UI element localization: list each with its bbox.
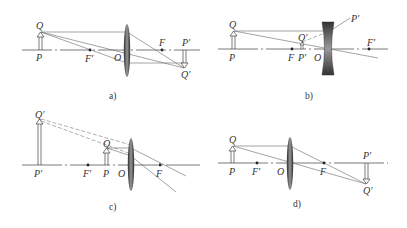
- virtual-image-arrow: [300, 42, 304, 49]
- convex-lens: [128, 138, 134, 191]
- label-O: O: [114, 52, 121, 63]
- caption-a: a): [109, 91, 116, 102]
- object-arrow: [103, 148, 110, 165]
- label-P-image: P′: [33, 168, 43, 179]
- label-F: F: [287, 52, 295, 63]
- panel-c: Q′ P′ F′ P Q O F c): [22, 109, 200, 213]
- label-F: F: [319, 166, 327, 177]
- ray-through-center: [233, 146, 366, 184]
- focal-point-back: [161, 49, 164, 52]
- label-Q: Q: [229, 134, 237, 145]
- label-P-image: P′: [297, 52, 307, 63]
- concave-lens: [322, 22, 334, 75]
- image-arrow: [363, 163, 370, 184]
- label-Q: Q: [229, 19, 237, 30]
- panel-a: Q P F′ O F P′ Q′ a): [22, 20, 200, 102]
- caption-c: c): [109, 202, 116, 213]
- label-O: O: [277, 166, 284, 177]
- label-Q-image: Q′: [363, 185, 373, 196]
- label-P: P: [102, 168, 109, 179]
- caption-d: d): [293, 199, 301, 210]
- label-Q-image: Q′: [35, 109, 45, 120]
- label-P-image: P′: [181, 37, 191, 48]
- label-Q-image: Q′: [298, 32, 308, 43]
- label-Q: Q: [103, 138, 111, 149]
- focal-point-back: [159, 164, 162, 167]
- label-F-prime: F′: [366, 37, 376, 48]
- ray-through-focus: [290, 146, 366, 184]
- label-F-prime: F′: [82, 168, 92, 179]
- ray-through-center-in: [107, 148, 131, 156]
- ray-through-center-out: [131, 156, 176, 192]
- focal-point-back: [368, 48, 371, 51]
- label-P: P: [35, 52, 42, 63]
- panel-b: Q P F P′ Q′ O F′ P′ b): [218, 13, 388, 102]
- focal-point-back: [323, 162, 326, 165]
- convex-lens: [124, 24, 130, 77]
- virtual-image-arrow: [36, 119, 43, 165]
- label-P-image: P′: [362, 150, 372, 161]
- caption-b: b): [305, 91, 313, 102]
- label-F: F: [155, 168, 163, 179]
- focal-point-front: [256, 162, 259, 165]
- focal-point-front: [291, 48, 294, 51]
- label-Q-image: Q′: [181, 69, 191, 80]
- object-arrow: [37, 32, 44, 50]
- label-O: O: [314, 52, 321, 63]
- convex-lens: [287, 137, 293, 190]
- label-P-upper: P′: [350, 13, 360, 24]
- focal-point-front: [87, 164, 90, 167]
- label-P: P: [228, 52, 235, 63]
- image-arrow: [181, 50, 188, 68]
- label-F-prime: F′: [84, 53, 94, 64]
- label-Q: Q: [36, 20, 44, 31]
- object-arrow: [229, 146, 236, 163]
- object-arrow: [230, 31, 237, 49]
- focal-point-front: [89, 49, 92, 52]
- panel-d: Q P F′ O F P′ Q′ d): [218, 134, 388, 210]
- optics-figure: Q P F′ O F P′ Q′ a) Q P F P′ Q′: [0, 0, 407, 228]
- virtual-ray-1: [41, 119, 131, 145]
- virtual-ray-2: [41, 121, 131, 154]
- label-F-prime: F′: [251, 166, 261, 177]
- label-O: O: [118, 168, 125, 179]
- label-P: P: [228, 166, 235, 177]
- label-F: F: [158, 37, 166, 48]
